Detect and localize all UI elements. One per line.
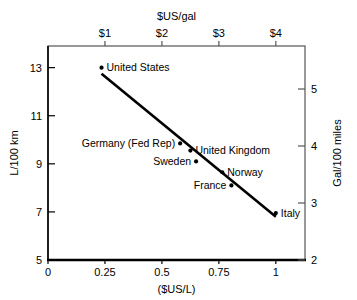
data-point-marker[interactable] <box>220 170 224 174</box>
data-point-label: France <box>194 179 227 191</box>
x-axis-top-tick-label: $2 <box>156 27 168 39</box>
y-axis-left-tick-label: 7 <box>36 206 42 218</box>
data-point[interactable]: Norway <box>220 166 263 178</box>
x-axis-bottom-tick-label: 0.75 <box>208 266 229 278</box>
data-point-label: Italy <box>281 207 301 219</box>
y-axis-right-tick-label: 2 <box>311 254 317 266</box>
x-axis-top-title: $US/gal <box>157 10 196 22</box>
data-point-label: Sweden <box>153 155 191 167</box>
data-point[interactable]: United States <box>99 61 169 73</box>
x-axis-top-tick-label: $4 <box>270 27 282 39</box>
data-point-marker[interactable] <box>188 148 192 152</box>
data-point-marker[interactable] <box>99 66 103 70</box>
x-axis-top-tick-label: $3 <box>213 27 225 39</box>
data-point-label: United States <box>107 61 170 73</box>
x-axis-bottom-title: ($US/L) <box>158 283 196 295</box>
x-axis-bottom-tick-label: 0 <box>45 266 51 278</box>
x-axis-bottom-tick-label: 0.5 <box>154 266 169 278</box>
y-axis-left-tick-label: 5 <box>36 254 42 266</box>
data-point[interactable]: Germany (Fed Rep) <box>82 137 182 149</box>
x-axis-bottom-tick-label: 1 <box>273 266 279 278</box>
y-axis-right-tick-label: 4 <box>311 140 317 152</box>
y-axis-left-tick-label: 11 <box>31 110 42 122</box>
data-point-marker[interactable] <box>274 211 278 215</box>
y-axis-right-title: Gal/100 miles <box>331 119 343 187</box>
data-point-marker[interactable] <box>229 183 233 187</box>
data-point-marker[interactable] <box>194 159 198 163</box>
y-axis-left-tick-label: 9 <box>36 158 42 170</box>
chart-background <box>0 0 357 300</box>
y-axis-right-tick-label: 5 <box>311 83 317 95</box>
data-point[interactable]: United Kingdom <box>188 144 270 156</box>
y-axis-right-tick-label: 3 <box>311 197 317 209</box>
data-point-marker[interactable] <box>178 141 182 145</box>
data-point-label: United Kingdom <box>195 144 270 156</box>
data-point-label: Germany (Fed Rep) <box>82 137 175 149</box>
data-point-label: Norway <box>227 166 263 178</box>
chart-canvas: 00.250.50.751 $1$2$3$4 5791113 2345 Unit… <box>0 0 357 300</box>
x-axis-bottom-tick-label: 0.25 <box>94 266 115 278</box>
y-axis-left-title: L/100 km <box>8 130 20 175</box>
x-axis-top-tick-label: $1 <box>99 27 111 39</box>
fuel-price-consumption-chart: 00.250.50.751 $1$2$3$4 5791113 2345 Unit… <box>0 0 357 300</box>
y-axis-left-tick-label: 13 <box>30 62 42 74</box>
